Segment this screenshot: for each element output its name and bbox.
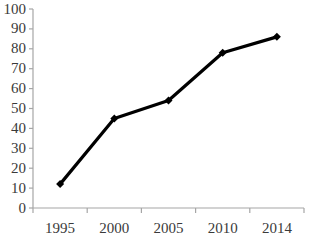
- x-axis-tick-label: 2000: [99, 221, 129, 236]
- x-axis-tick-label: 2010: [208, 221, 238, 236]
- x-axis-tick-label: 2005: [154, 221, 184, 236]
- x-axis-tick-label: 1995: [45, 221, 75, 236]
- line-chart: 1009080706050403020100 19952000200520102…: [0, 0, 310, 252]
- x-axis-tick-labels: 19952000200520102014: [0, 0, 310, 252]
- x-axis-tick-label: 2014: [262, 221, 292, 236]
